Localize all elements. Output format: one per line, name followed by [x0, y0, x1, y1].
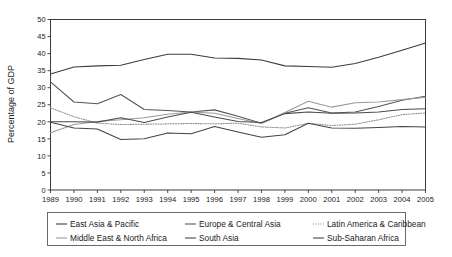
y-axis-tick-labels: 05101520253035404550 — [37, 15, 45, 195]
x-tick-label: 1997 — [230, 195, 247, 204]
x-tick-label: 1989 — [42, 195, 59, 204]
plot-frame — [51, 20, 426, 191]
x-tick-label: 1991 — [89, 195, 106, 204]
series-line-east-asia-pacific — [51, 43, 426, 74]
x-tick-label: 2002 — [347, 195, 364, 204]
y-tick-label: 45 — [37, 32, 45, 41]
x-tick-label: 2004 — [394, 195, 411, 204]
x-axis-tick-labels: 1989199019911992199319941995199619971998… — [42, 195, 434, 204]
legend-label-sub-saharan-africa: Sub-Saharan Africa — [327, 233, 399, 243]
x-tick-label: 2000 — [300, 195, 317, 204]
y-tick-label: 40 — [37, 49, 45, 58]
x-tick-label: 2003 — [370, 195, 387, 204]
y-tick-label: 5 — [41, 169, 45, 178]
x-tick-label: 1990 — [65, 195, 82, 204]
x-tick-label: 1993 — [136, 195, 153, 204]
y-tick-label: 0 — [41, 186, 45, 195]
x-tick-label: 2001 — [323, 195, 340, 204]
x-tick-label: 1994 — [159, 195, 176, 204]
x-tick-label: 1998 — [253, 195, 270, 204]
line-chart-figure: Percentage of GDP 05101520253035404550 1… — [0, 0, 452, 257]
y-tick-label: 50 — [37, 15, 45, 24]
x-tick-label: 1992 — [112, 195, 129, 204]
legend-label-south-asia: South Asia — [199, 233, 239, 243]
y-tick-label: 15 — [37, 135, 45, 144]
y-tick-label: 10 — [37, 152, 45, 161]
data-series-group — [51, 43, 426, 140]
legend-label-latin-america-caribbean: Latin America & Caribbean — [327, 219, 426, 229]
y-tick-label: 20 — [37, 118, 45, 127]
legend: East Asia & PacificEurope & Central Asia… — [56, 219, 426, 243]
y-tick-label: 25 — [37, 100, 45, 109]
series-line-south-asia — [51, 109, 426, 123]
y-tick-label: 35 — [37, 66, 45, 75]
legend-label-middle-east-north-africa: Middle East & North Africa — [70, 233, 167, 243]
legend-label-east-asia-pacific: East Asia & Pacific — [70, 219, 139, 229]
y-axis-title: Percentage of GDP — [6, 65, 16, 143]
legend-label-europe-central-asia: Europe & Central Asia — [199, 219, 281, 229]
x-tick-label: 1996 — [206, 195, 223, 204]
x-tick-label: 2005 — [417, 195, 434, 204]
x-tick-label: 1995 — [183, 195, 200, 204]
y-tick-label: 30 — [37, 83, 45, 92]
x-tick-label: 1999 — [276, 195, 293, 204]
series-line-sub-saharan-africa — [51, 122, 426, 139]
